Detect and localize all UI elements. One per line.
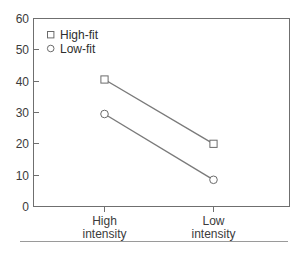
legend-label-high-fit: High-fit <box>60 28 99 42</box>
circle-marker-icon <box>47 45 54 52</box>
x-tick-label-low-line2: intensity <box>191 227 235 241</box>
y-tick-label-20: 20 <box>16 137 30 151</box>
y-tick-label-30: 30 <box>16 106 30 120</box>
x-axis-ticks <box>105 207 214 212</box>
x-axis-tick-labels: High intensity Low intensity <box>82 214 235 241</box>
y-tick-label-40: 40 <box>16 75 30 89</box>
y-tick-label-50: 50 <box>16 43 30 57</box>
x-tick-label-high-line1: High <box>92 214 117 228</box>
series-low-fit-marker-high-intensity <box>101 110 109 118</box>
series-low-fit-marker-low-intensity <box>210 176 218 184</box>
square-marker-icon <box>48 32 54 38</box>
legend-label-low-fit: Low-fit <box>60 42 96 56</box>
figure-container: 60 50 40 30 20 10 0 High intensity Low i… <box>0 0 306 253</box>
series-low-fit <box>101 110 218 183</box>
line-chart: 60 50 40 30 20 10 0 High intensity Low i… <box>0 0 306 253</box>
series-low-fit-line <box>105 114 214 180</box>
series-high-fit-marker-low-intensity <box>210 140 217 147</box>
y-axis-tick-labels: 60 50 40 30 20 10 0 <box>16 12 30 214</box>
legend-entry-low-fit: Low-fit <box>47 42 96 56</box>
y-tick-label-60: 60 <box>16 12 30 26</box>
series-high-fit-line <box>105 80 214 144</box>
y-tick-label-10: 10 <box>16 169 30 183</box>
legend-entry-high-fit: High-fit <box>48 28 99 42</box>
x-tick-label-high-line2: intensity <box>82 227 126 241</box>
series-high-fit <box>101 76 217 147</box>
series-high-fit-marker-high-intensity <box>101 76 108 83</box>
legend: High-fit Low-fit <box>47 28 98 56</box>
x-tick-label-low-line1: Low <box>202 214 224 228</box>
y-tick-label-0: 0 <box>22 200 29 214</box>
y-axis-ticks <box>34 19 39 207</box>
